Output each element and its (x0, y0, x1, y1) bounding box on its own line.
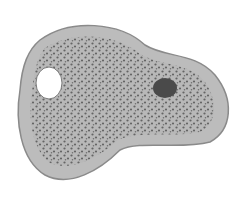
vacuole (36, 67, 62, 99)
cell-diagram (0, 0, 243, 202)
nucleus (153, 78, 177, 98)
